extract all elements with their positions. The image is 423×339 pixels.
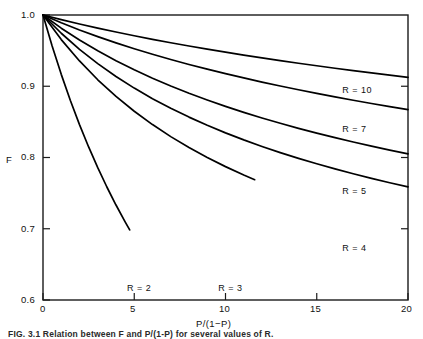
curve-label-r-7: R = 7 [342,124,366,134]
curve-r-10 [43,15,408,77]
y-axis-title: F [6,154,12,165]
x-tick-label-2: 5 [130,303,136,314]
curve-r-7 [43,15,408,110]
y-tick-label-4: 0.7 [21,223,35,234]
curve-group [43,15,408,230]
y-tick-label-2: 0.9 [21,80,35,91]
curve-label-r-5: R = 5 [342,186,366,196]
curve-label-r-4: R = 4 [342,243,366,253]
x-tick-label-3: 10 [219,303,230,314]
plot-area [0,0,423,339]
curve-label-r-2: R = 2 [127,283,151,293]
y-tick-label-3: 0.8 [21,151,35,162]
y-axis-ticks-right [401,86,408,229]
curve-r-2 [43,15,130,230]
x-axis-ticks [43,293,408,300]
curve-label-r-3: R = 3 [218,283,242,293]
figure-container: 1.0 0.9 0.8 0.7 0.6 0 5 10 15 20 F P/(1−… [0,0,423,339]
curve-label-r-10: R = 10 [342,85,372,95]
y-axis-ticks [43,15,50,300]
y-tick-label-5: 0.6 [21,294,35,305]
x-tick-label-1: 0 [40,303,46,314]
figure-caption: FIG. 3.1 Relation between F and P/(1-P) … [8,329,418,339]
x-tick-label-4: 15 [310,303,321,314]
plot-frame [43,15,408,300]
x-axis-title: P/(1−P) [196,318,231,329]
x-tick-label-5: 20 [401,303,412,314]
y-tick-label-1: 1.0 [21,9,35,20]
